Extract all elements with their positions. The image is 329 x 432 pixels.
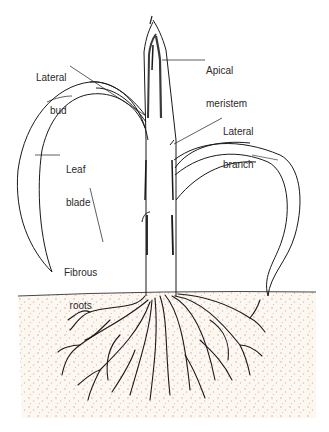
grass-plant-diagram: Lateral bud Apical meristem Lateral bran… — [0, 0, 329, 432]
label-leaf-blade: Leaf blade — [66, 142, 90, 230]
leaf-upper-left — [90, 82, 146, 122]
main-stem — [142, 16, 176, 296]
label-lateral-bud: Lateral bud — [36, 50, 67, 138]
label-lateral-branch: Lateral branch — [223, 104, 254, 192]
label-fibrous-roots: Fibrous roots — [64, 245, 97, 333]
